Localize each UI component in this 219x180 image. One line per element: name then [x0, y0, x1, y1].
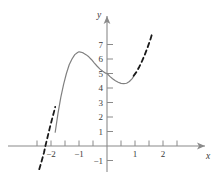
axis-lines — [8, 16, 205, 172]
y-axis-tick-labels: −11234567 — [93, 40, 103, 166]
y-axis-ticks — [107, 45, 113, 161]
y-tick-label: 6 — [99, 54, 104, 64]
y-tick-label: 7 — [99, 40, 104, 50]
graph-figure: −2−112 −11234567 x y — [0, 0, 219, 180]
cubic-dashed-left-extension — [39, 107, 55, 169]
y-tick-label: 1 — [99, 127, 104, 137]
x-tick-label: 1 — [133, 149, 138, 159]
x-axis-label: x — [205, 151, 211, 161]
cubic-function-plot: −2−112 −11234567 x y — [0, 0, 219, 180]
cubic-dashed-right-extension — [134, 33, 153, 76]
x-tick-label: −2 — [46, 149, 56, 159]
y-axis-label: y — [96, 10, 102, 20]
y-tick-label: 3 — [99, 98, 104, 108]
y-tick-label: −1 — [93, 156, 103, 166]
x-tick-label: 2 — [161, 149, 166, 159]
x-tick-label: −1 — [74, 149, 84, 159]
x-axis-tick-labels: −2−112 — [46, 149, 165, 159]
y-tick-label: 2 — [99, 112, 104, 122]
cubic-solid-segment — [55, 52, 135, 132]
y-tick-label: 4 — [99, 83, 104, 93]
